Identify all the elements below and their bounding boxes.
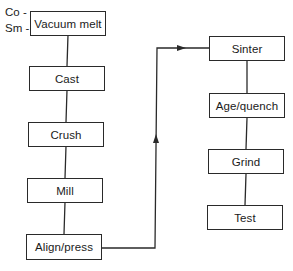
input-label-sm: Sm - — [5, 22, 29, 34]
step-label: Sinter — [232, 43, 263, 55]
step-cast: Cast — [29, 66, 105, 91]
edge-mill-align-press — [64, 202, 65, 234]
step-age-quench: Age/quench — [209, 93, 285, 118]
edge-cast-crush — [66, 90, 67, 122]
edge-age-quench-grind — [246, 118, 247, 149]
step-crush: Crush — [28, 122, 104, 147]
step-mill: Mill — [27, 178, 103, 203]
step-label: Crush — [50, 129, 81, 141]
step-vacuum-melt: Vacuum melt — [30, 11, 106, 36]
step-label: Cast — [55, 73, 79, 85]
arrow-up-icon — [153, 134, 159, 143]
step-test: Test — [207, 205, 283, 230]
edge-grind-test — [245, 174, 246, 205]
arrow-right-icon — [177, 45, 186, 51]
step-align-press: Align/press — [26, 234, 102, 260]
edge-align-press-sinter — [102, 48, 209, 248]
step-label: Grind — [232, 156, 261, 168]
step-label: Align/press — [35, 241, 93, 253]
step-sinter: Sinter — [209, 36, 285, 61]
input-label-co: Co - — [5, 6, 27, 18]
step-grind: Grind — [208, 149, 284, 174]
step-label: Mill — [56, 185, 74, 197]
step-label: Test — [234, 212, 256, 224]
step-label: Vacuum melt — [34, 18, 101, 30]
edge-crush-mill — [65, 146, 66, 178]
edge-vacuum-melt-cast — [67, 35, 68, 66]
step-label: Age/quench — [216, 100, 278, 112]
